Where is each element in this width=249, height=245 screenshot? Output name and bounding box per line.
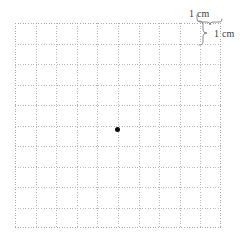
point-marker bbox=[115, 127, 120, 132]
cell-height-label: 1 cm bbox=[214, 28, 235, 39]
grid-line-horizontal-9 bbox=[15, 208, 221, 209]
grid-line-horizontal-2 bbox=[15, 64, 221, 65]
grid-line-horizontal-10 bbox=[15, 227, 221, 228]
cell-width-label: 1 cm bbox=[189, 8, 210, 19]
grid-line-horizontal-1 bbox=[15, 44, 221, 45]
diagram-canvas: 1 cm 1 cm bbox=[0, 0, 249, 245]
grid-line-horizontal-0 bbox=[15, 23, 221, 24]
grid-line-horizontal-7 bbox=[15, 167, 221, 168]
grid-line-horizontal-6 bbox=[15, 146, 221, 147]
grid-line-horizontal-8 bbox=[15, 187, 221, 188]
cell-height-brace-icon bbox=[198, 20, 210, 46]
centimeter-grid bbox=[15, 23, 221, 228]
grid-line-horizontal-4 bbox=[15, 105, 221, 106]
grid-line-horizontal-3 bbox=[15, 85, 221, 86]
